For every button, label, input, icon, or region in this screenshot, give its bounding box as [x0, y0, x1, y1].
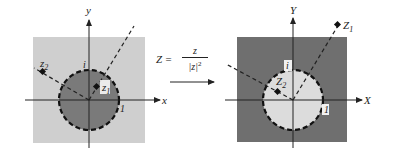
right-imag-unit-label: i [286, 60, 289, 71]
left-x-label: x [161, 94, 167, 106]
right-point-Z1 [334, 21, 341, 28]
left-real-unit-label: 1 [120, 103, 125, 114]
right-X-label: X [363, 94, 372, 106]
formula-numerator: z [182, 46, 208, 56]
formula-denominator: |z|2 [182, 59, 208, 72]
formula-lhs: Z = [156, 53, 172, 65]
left-y-label: y [85, 4, 91, 16]
right-Y-label: Y [290, 4, 298, 16]
right-real-unit-label: 1 [324, 104, 329, 115]
right-Z1-label: Z1 [343, 19, 353, 34]
right-plane: Z1 Z2 i 1 Y X [225, 4, 372, 148]
formula-fraction: z |z|2 [182, 46, 208, 72]
left-plane: z1 z2 i 1 y x [25, 4, 167, 148]
left-imag-unit-label: i [83, 59, 86, 70]
fraction-bar [182, 57, 208, 58]
diagram-canvas: z1 z2 i 1 y x Z1 Z2 i 1 Y X [0, 0, 396, 154]
